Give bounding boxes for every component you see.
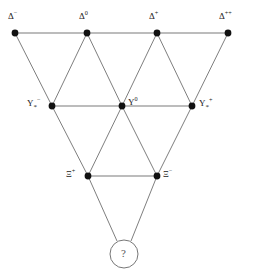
edge-y-minus-to-xi-plus <box>52 106 88 176</box>
label-unknown-particle: ? <box>121 248 126 259</box>
edge-y-plus-to-xi-minus <box>157 106 192 176</box>
label-y-star-zero: Y0 <box>128 98 138 107</box>
diagonal-edges-upper <box>15 33 228 106</box>
label-delta-plus-plus: Δ++ <box>219 12 232 21</box>
label-xi-plus: Ξ+ <box>66 170 75 179</box>
label-delta-plus: Δ+ <box>149 12 158 21</box>
edge-xi-plus-to-unknown <box>88 176 117 241</box>
edge-delta-zero-to-y-zero <box>87 33 122 106</box>
label-y-star-minus: Y*− <box>27 99 41 108</box>
edge-delta-plus-to-y-plus <box>157 33 192 106</box>
diagonal-edges-middle <box>52 106 192 176</box>
edge-y-zero-to-xi-plus <box>88 106 122 176</box>
edge-delta-minus-to-y-minus <box>15 33 52 106</box>
node-y-star-minus[interactable] <box>49 103 56 110</box>
label-delta-zero: Δ0 <box>79 12 88 21</box>
label-y-star-plus: Y*+ <box>199 99 213 108</box>
edge-delta-zero-to-y-minus <box>52 33 87 106</box>
node-delta-zero[interactable] <box>84 30 91 37</box>
node-delta-plus-plus[interactable] <box>225 30 232 37</box>
node-xi-minus[interactable] <box>154 173 161 180</box>
decuplet-diagram: Δ− Δ0 Δ+ Δ++ Y*− Y0 Y*+ Ξ+ Ξ− ? <box>0 0 253 280</box>
node-y-star-zero[interactable] <box>119 103 126 110</box>
node-xi-plus[interactable] <box>85 173 92 180</box>
decuplet-canvas <box>0 0 253 280</box>
label-xi-minus: Ξ− <box>163 170 172 179</box>
diagonal-edges-lower <box>88 176 157 241</box>
node-delta-minus[interactable] <box>12 30 19 37</box>
edge-delta-plus-to-y-zero <box>122 33 157 106</box>
edge-xi-minus-to-unknown <box>131 176 157 241</box>
node-y-star-plus[interactable] <box>189 103 196 110</box>
node-delta-plus[interactable] <box>154 30 161 37</box>
label-delta-minus: Δ− <box>8 12 17 21</box>
edge-y-zero-to-xi-minus <box>122 106 157 176</box>
